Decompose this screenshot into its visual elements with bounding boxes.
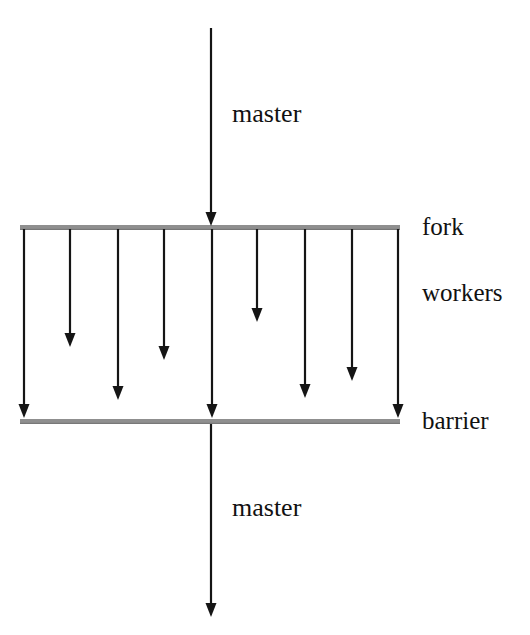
arrow-worker-4 [159, 229, 170, 360]
label-master-bottom: master [232, 495, 301, 521]
label-barrier: barrier [422, 408, 489, 433]
arrow-worker-5 [207, 229, 218, 418]
diagram-vector-layer [0, 0, 530, 635]
arrow-worker-1 [19, 229, 30, 418]
arrow-worker-3 [113, 229, 124, 400]
arrow-worker-2 [65, 229, 76, 347]
barrier-bars-group [20, 225, 400, 424]
arrow-master-in [206, 28, 217, 226]
bar-fork [20, 225, 400, 230]
diagram-canvas: master fork workers barrier master [0, 0, 530, 635]
worker-arrows-group [19, 229, 404, 418]
arrow-worker-7 [300, 229, 311, 398]
bar-barrier [20, 419, 400, 424]
label-workers: workers [422, 280, 503, 305]
arrow-worker-9 [393, 229, 404, 418]
arrow-worker-8 [347, 229, 358, 381]
arrow-worker-6 [252, 229, 263, 322]
arrow-master-out [206, 424, 217, 617]
label-master-top: master [232, 101, 301, 127]
label-fork: fork [422, 214, 464, 239]
